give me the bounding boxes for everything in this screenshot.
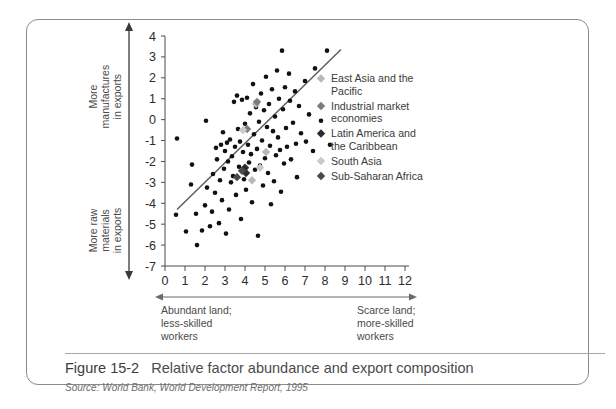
data-point (268, 143, 273, 148)
data-point (259, 91, 264, 96)
y-axis-tick-label: 1 (149, 92, 156, 106)
data-point (239, 217, 244, 222)
data-point (256, 233, 261, 238)
legend-label-industrial-market-economies: Industrial market (331, 100, 409, 112)
data-point (325, 48, 330, 53)
x-axis-right-label-line: more-skilled (357, 317, 414, 329)
data-point (210, 209, 215, 214)
data-point (214, 146, 219, 151)
data-point (304, 139, 309, 144)
data-point (252, 132, 257, 137)
y-axis-bottom-label-line: materials (99, 209, 111, 252)
caption-divider (65, 353, 605, 354)
data-point (262, 108, 267, 113)
data-point (274, 153, 279, 158)
data-point (241, 150, 246, 155)
source-publisher: World Bank, (102, 382, 156, 393)
legend-label-latin-america-and-the-caribbean: Latin America and (331, 127, 416, 139)
data-point (257, 119, 262, 124)
data-point (226, 159, 231, 164)
data-point (260, 138, 265, 143)
x-axis-tick-label: 3 (222, 274, 229, 288)
legend-item-industrial-market-economies[interactable]: Industrial marketeconomies (317, 100, 410, 125)
data-point (249, 152, 254, 157)
y-axis-top-label-line: More (87, 85, 99, 109)
data-point (204, 118, 209, 123)
y-axis-tick-label: -1 (145, 134, 156, 148)
x-axis-tick-label: 4 (242, 274, 249, 288)
data-point (265, 125, 270, 130)
legend-item-south-asia[interactable]: South Asia (317, 155, 382, 167)
data-point (234, 193, 239, 198)
data-point (194, 211, 199, 216)
figure-frame: 43210-1-2-3-4-5-6-7Moremanufacturesin ex… (26, 19, 589, 385)
x-axis-right-label-line: Scarce land; (357, 304, 415, 316)
x-axis-tick-label: 11 (379, 274, 392, 288)
figure-title: Relative factor abundance and export com… (151, 360, 473, 376)
source-label: Source: (65, 382, 99, 393)
data-point (266, 171, 271, 176)
data-point (311, 149, 316, 154)
data-point (247, 160, 252, 165)
data-point (211, 172, 216, 177)
data-point (267, 102, 272, 107)
data-point (235, 93, 240, 98)
data-point (278, 148, 283, 153)
legend-label-east-asia-and-the-pacific: Pacific (331, 85, 363, 97)
data-point (174, 212, 179, 217)
x-axis-tick-label: 5 (262, 274, 269, 288)
x-axis-tick-label: 1 (182, 274, 189, 288)
figure-number: Figure 15-2 (65, 360, 139, 376)
data-point (285, 145, 290, 150)
data-point (227, 207, 232, 212)
data-point (294, 141, 299, 146)
data-point (224, 231, 229, 236)
legend-item-sub-saharan-africa[interactable]: Sub-Saharan Africa (317, 170, 423, 182)
legend-label-industrial-market-economies: economies (331, 112, 382, 124)
data-point (190, 162, 195, 167)
x-axis-left-label-line: Abundant land; (161, 304, 232, 316)
x-axis-tick-label: 6 (282, 274, 289, 288)
x-axis-left-label-line: less-skilled (161, 317, 213, 329)
data-point (289, 157, 294, 162)
data-point (205, 185, 210, 190)
data-point (203, 203, 208, 208)
data-point (238, 139, 243, 144)
y-axis-tick-label: -3 (145, 176, 156, 190)
data-point (275, 68, 280, 73)
y-axis-bottom-label-line: in exports (111, 208, 123, 254)
data-point (297, 104, 302, 109)
legend-marker-latin-america-and-the-caribbean (317, 129, 325, 137)
data-point (269, 202, 274, 207)
legend-label-latin-america-and-the-caribbean: the Caribbean (331, 140, 398, 152)
x-axis-tick-label: 9 (342, 274, 349, 288)
x-axis-tick-label: 12 (398, 274, 412, 288)
data-point (282, 161, 287, 166)
data-point (195, 243, 200, 248)
data-point (175, 136, 180, 141)
data-point (283, 85, 288, 90)
data-point (246, 142, 251, 147)
x-axis-left-label-line: workers (160, 330, 198, 342)
data-point (189, 182, 194, 187)
data-point (291, 120, 296, 125)
data-point (313, 66, 318, 71)
data-point (284, 126, 289, 131)
data-point (232, 100, 237, 105)
x-axis-tick-label: 10 (358, 274, 372, 288)
data-point (255, 147, 260, 152)
legend-item-latin-america-and-the-caribbean[interactable]: Latin America andthe Caribbean (317, 127, 416, 152)
data-point (273, 114, 278, 119)
data-point (303, 79, 308, 84)
legend-item-east-asia-and-the-pacific[interactable]: East Asia and thePacific (317, 72, 414, 97)
data-point (213, 191, 218, 196)
y-axis-tick-label: -2 (145, 155, 156, 169)
x-axis-tick-label: 2 (202, 274, 209, 288)
data-point-diamond (248, 176, 256, 184)
data-point (307, 112, 312, 117)
y-axis-tick-label: -4 (145, 197, 156, 211)
legend-marker-south-asia (317, 157, 325, 165)
data-point (229, 180, 234, 185)
data-point (272, 179, 277, 184)
data-point (288, 99, 293, 104)
